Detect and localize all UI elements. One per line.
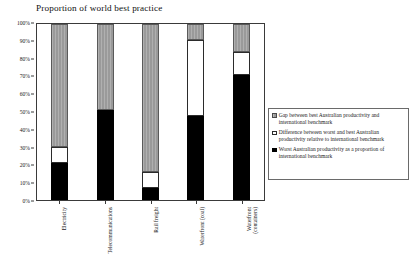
bars-layer	[37, 24, 264, 200]
bar-stack	[142, 24, 159, 200]
bar-group	[97, 24, 114, 200]
y-tick-mark	[31, 165, 34, 166]
bar-segment-gap	[51, 24, 68, 147]
legend-item: Difference between worst and best Austra…	[272, 129, 405, 142]
x-tick-mark	[59, 201, 60, 204]
x-tick-label-line: Rail freight	[153, 207, 159, 233]
y-tick-mark	[31, 58, 34, 59]
y-tick-label: 0%	[23, 198, 30, 204]
y-tick-label: 90%	[20, 38, 30, 44]
bar-segment-difference	[142, 172, 159, 188]
x-tick-mark	[242, 201, 243, 204]
y-tick-label: 10%	[20, 180, 30, 186]
x-tick-label: Electricity	[61, 207, 67, 230]
x-tick-label-line: Telecommunications	[107, 207, 113, 254]
y-tick-label: 100%	[17, 20, 30, 26]
legend-item-label: Gap between best Australian productivity…	[279, 112, 405, 125]
bar-group	[142, 24, 159, 200]
y-tick-mark	[31, 201, 34, 202]
x-tick-label-line: Electricity	[61, 207, 67, 230]
x-tick-label: Waterfront(containers)	[246, 207, 259, 234]
x-tick-label-line: Waterfront (coal)	[199, 207, 205, 246]
y-tick-mark	[31, 183, 34, 184]
bar-stack	[187, 24, 204, 200]
bar-segment-gap	[97, 24, 114, 110]
chart-legend: Gap between best Australian productivity…	[268, 108, 409, 180]
plot-area	[36, 23, 265, 201]
legend-item: Worst Australian productivity as a propo…	[272, 146, 405, 159]
bar-group	[51, 24, 68, 200]
bar-stack	[233, 24, 250, 200]
bar-segment-difference	[51, 147, 68, 163]
x-tick-mark	[196, 201, 197, 204]
y-tick-label: 20%	[20, 162, 30, 168]
x-tick-label-line: (containers)	[253, 207, 259, 234]
legend-item-label: Difference between worst and best Austra…	[279, 129, 405, 142]
legend-swatch-worst-icon	[272, 148, 277, 153]
bar-segment-worst-productivity	[233, 75, 250, 200]
bar-segment-worst-productivity	[187, 116, 204, 200]
chart-container: Proportion of world best practice 0%10%2…	[0, 0, 413, 271]
bar-group	[187, 24, 204, 200]
x-axis: ElectricityTelecommunicationsRail freigh…	[36, 201, 265, 271]
x-tick-mark	[105, 201, 106, 204]
bar-segment-gap	[233, 24, 250, 52]
chart-title: Proportion of world best practice	[36, 3, 162, 13]
bar-stack	[97, 24, 114, 200]
y-tick-label: 70%	[20, 73, 30, 79]
bar-segment-difference	[233, 52, 250, 75]
bar-segment-gap	[187, 24, 204, 40]
bar-stack	[51, 24, 68, 200]
legend-item: Gap between best Australian productivity…	[272, 112, 405, 125]
y-tick-label: 80%	[20, 56, 30, 62]
legend-swatch-difference-icon	[272, 131, 277, 136]
y-tick-mark	[31, 40, 34, 41]
y-tick-label: 60%	[20, 91, 30, 97]
x-tick-label: Rail freight	[153, 207, 159, 233]
y-tick-label: 50%	[20, 109, 30, 115]
y-tick-label: 30%	[20, 145, 30, 151]
y-tick-mark	[31, 129, 34, 130]
bar-segment-worst-productivity	[51, 163, 68, 200]
x-tick-label: Telecommunications	[107, 207, 113, 254]
bar-segment-worst-productivity	[142, 188, 159, 200]
y-tick-mark	[31, 147, 34, 148]
y-tick-mark	[31, 23, 34, 24]
bar-segment-worst-productivity	[97, 110, 114, 200]
bar-group	[233, 24, 250, 200]
y-tick-label: 40%	[20, 127, 30, 133]
y-tick-mark	[31, 76, 34, 77]
bar-segment-difference	[187, 40, 204, 116]
legend-swatch-gap-icon	[272, 113, 277, 118]
x-tick-label-line: Waterfront	[246, 207, 252, 231]
y-tick-mark	[31, 112, 34, 113]
y-tick-mark	[31, 94, 34, 95]
x-tick-mark	[151, 201, 152, 204]
y-axis: 0%10%20%30%40%50%60%70%80%90%100%	[0, 23, 34, 201]
legend-item-label: Worst Australian productivity as a propo…	[279, 146, 405, 159]
x-tick-label: Waterfront (coal)	[199, 207, 205, 246]
bar-segment-gap	[142, 24, 159, 172]
